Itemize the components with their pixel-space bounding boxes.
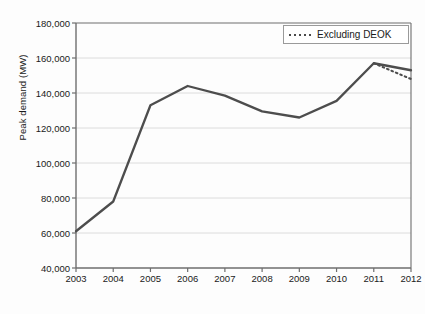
axis-lines <box>76 23 411 268</box>
x-tick-label: 2009 <box>289 273 310 284</box>
x-tick-label: 2012 <box>400 273 421 284</box>
dotted-line-swatch-icon <box>289 34 311 36</box>
axis-ticks <box>72 23 411 272</box>
x-tick-label: 2005 <box>140 273 161 284</box>
x-tick-label: 2003 <box>65 273 86 284</box>
legend-entry-label: Excluding DEOK <box>317 29 391 40</box>
x-tick-label: 2010 <box>326 273 347 284</box>
gridlines <box>76 58 411 233</box>
x-tick-label: 2006 <box>177 273 198 284</box>
chart-container: Peak demand (MW) 180,000 160,000 140,000… <box>0 0 425 314</box>
chart-legend: Excluding DEOK <box>283 25 409 44</box>
chart-plot-area <box>0 0 425 314</box>
x-tick-label: 2007 <box>214 273 235 284</box>
x-tick-label: 2004 <box>103 273 124 284</box>
x-tick-label: 2008 <box>252 273 273 284</box>
data-series <box>76 63 411 231</box>
x-tick-label: 2011 <box>364 273 384 284</box>
